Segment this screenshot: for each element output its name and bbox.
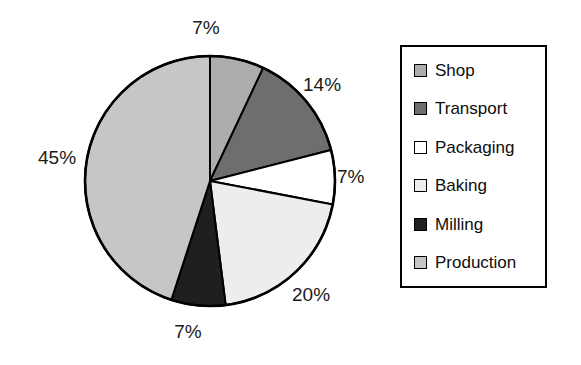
legend-item-label: Transport	[435, 100, 507, 117]
legend-item-label: Shop	[435, 62, 475, 79]
legend-item-milling[interactable]: Milling	[414, 211, 545, 237]
legend-item-label: Production	[435, 254, 516, 271]
legend-item-packaging[interactable]: Packaging	[414, 134, 545, 160]
pie-value-label-packaging: 7%	[337, 167, 364, 186]
pie-value-label-production: 45%	[38, 148, 76, 167]
pie-value-label-shop: 7%	[192, 18, 219, 37]
legend-item-label: Baking	[435, 177, 487, 194]
legend-item-label: Packaging	[435, 139, 514, 156]
pie-value-label-milling: 7%	[174, 322, 201, 341]
chart-legend: ShopTransportPackagingBakingMillingProdu…	[400, 45, 547, 288]
legend-swatch-icon-shop	[414, 64, 427, 77]
legend-swatch-icon-baking	[414, 179, 427, 192]
legend-swatch-icon-packaging	[414, 141, 427, 154]
legend-item-transport[interactable]: Transport	[414, 96, 545, 122]
legend-swatch-icon-production	[414, 256, 427, 269]
pie-value-label-baking: 20%	[292, 285, 330, 304]
chart-canvas: 7%14%7%20%7%45% ShopTransportPackagingBa…	[0, 0, 581, 365]
legend-swatch-icon-transport	[414, 102, 427, 115]
legend-swatch-icon-milling	[414, 218, 427, 231]
legend-item-shop[interactable]: Shop	[414, 57, 545, 83]
legend-item-production[interactable]: Production	[414, 250, 545, 276]
legend-item-label: Milling	[435, 216, 483, 233]
legend-item-baking[interactable]: Baking	[414, 173, 545, 199]
pie-value-label-transport: 14%	[303, 75, 341, 94]
